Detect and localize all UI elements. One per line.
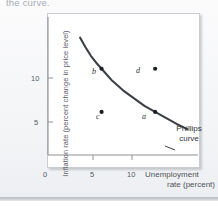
chart-plot-area: Inflation rate (percent change in price … bbox=[47, 13, 200, 168]
x-axis-label-line2: rate (percent) bbox=[145, 180, 217, 190]
scanned-page-background: the curve. Inflation rate (percent chang… bbox=[0, 0, 218, 207]
data-point-label-c: c bbox=[96, 112, 100, 121]
y-axis-label: Inflation rate (percent change in price … bbox=[61, 29, 70, 179]
data-point-label-a: a bbox=[142, 112, 146, 121]
data-point-b bbox=[99, 67, 103, 71]
data-point-d bbox=[153, 67, 157, 71]
data-point-label-b: b bbox=[92, 67, 96, 76]
annotation-leader-line bbox=[165, 146, 175, 150]
x-tick-label-0: 0 bbox=[43, 170, 47, 179]
x-axis-label: Unemployment rate (percent) bbox=[145, 170, 217, 190]
annotation-line1: Phillips bbox=[176, 124, 201, 133]
phillips-curve-annotation: Phillips curve bbox=[166, 124, 212, 143]
x-tick-label-10: 10 bbox=[127, 170, 135, 179]
page-bottom-strip bbox=[0, 201, 218, 207]
y-tick-label-5: 5 bbox=[34, 118, 38, 127]
data-point-label-d: d bbox=[136, 66, 140, 75]
data-point-group bbox=[99, 67, 157, 114]
x-tick-label-5: 5 bbox=[90, 170, 94, 179]
chart-svg bbox=[47, 13, 200, 168]
y-tick-label-10: 10 bbox=[31, 74, 39, 83]
data-point-c bbox=[99, 110, 103, 114]
annotation-line2: curve bbox=[179, 134, 199, 143]
x-axis-label-line1: Unemployment bbox=[145, 170, 199, 179]
data-point-a bbox=[153, 110, 157, 114]
caption-fragment-text: the curve. bbox=[6, 0, 126, 8]
